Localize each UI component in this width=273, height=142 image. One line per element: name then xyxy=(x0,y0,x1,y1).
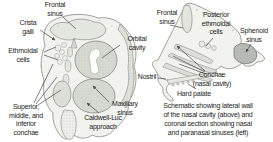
nasal-sinus-schematic-figure: Frontal sinus Crista galli Ethmoidal cel… xyxy=(0,0,273,142)
label-orbital-cavity: Orbital cavity xyxy=(119,35,155,52)
label-frontal-sinus-sagittal: Frontal sinus xyxy=(149,9,185,26)
label-hard-palate: Hard palate xyxy=(171,90,217,99)
label-posterior-ethmoidal-cells: Posterior ethmoidal cells xyxy=(196,11,236,37)
label-frontal-sinus-coronal: Frontal sinus xyxy=(37,1,73,18)
figure-caption: Schematic showing lateral wall of the na… xyxy=(145,101,271,137)
maxillary-sinus-left-shape xyxy=(53,81,71,107)
label-caldwell-luc-approach: Caldwell-Luc approach xyxy=(80,114,126,131)
label-sphenoid-sinus: Sphenoid sinus xyxy=(235,27,273,44)
label-nostril: Nostril xyxy=(133,73,161,82)
label-crista-galli: Crista galli xyxy=(10,19,46,36)
label-conchae-coronal: Superior, middle, and inferior conchae xyxy=(2,103,50,137)
label-ethmoidal-cells: Ethmoidal cells xyxy=(2,47,44,64)
label-conchae-sagittal: Conchae (nasal cavity) xyxy=(188,71,236,88)
sphenoid-stipple xyxy=(234,44,257,64)
